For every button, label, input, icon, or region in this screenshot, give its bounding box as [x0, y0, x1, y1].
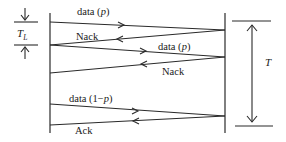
nack-message-2-line: [50, 57, 225, 73]
data-message-2-label: data (p): [158, 42, 190, 53]
right-arrow-icon: [132, 108, 138, 114]
arq-timing-diagram: [0, 0, 286, 142]
tl-sub: L: [23, 33, 27, 42]
data-message-3-label: data (1−p): [69, 94, 113, 105]
label-text: Ack: [75, 125, 93, 136]
up-arrow-icon: [21, 47, 29, 59]
down-arrow-icon: [21, 8, 29, 20]
data-message-1-label: data (p): [77, 7, 109, 18]
label-text: Nack: [162, 66, 184, 77]
label-close: ): [109, 93, 113, 104]
label-text: data (1−: [69, 93, 104, 104]
ack-message-label: Ack: [75, 126, 93, 137]
tl-label: TL: [17, 28, 27, 39]
label-text: data (: [158, 41, 182, 52]
t-main: T: [265, 56, 271, 68]
double-arrow-icon: [247, 25, 257, 122]
data-message-2-line: [50, 45, 225, 57]
label-text: Nack: [76, 31, 98, 42]
label-close: ): [106, 6, 110, 17]
label-text: data (: [77, 6, 101, 17]
nack-message-2-label: Nack: [162, 67, 184, 78]
label-close: ): [187, 41, 191, 52]
t-label: T: [265, 57, 271, 68]
data-message-1-line: [50, 22, 225, 30]
data-message-3-line: [50, 104, 225, 116]
nack-message-1-label: Nack: [76, 32, 98, 43]
